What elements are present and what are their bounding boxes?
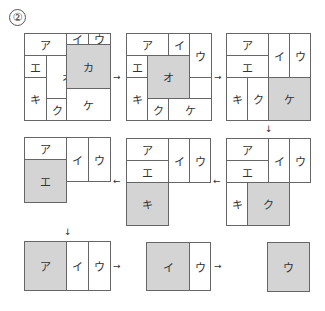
cell: ア	[24, 137, 67, 160]
cell: キ	[24, 77, 47, 121]
cell: エ	[226, 160, 269, 183]
arrow-left-icon: ←	[113, 176, 121, 186]
arrow-right-icon: →	[113, 72, 121, 82]
cell: ウ	[289, 138, 311, 183]
cell: ア	[126, 138, 169, 161]
cell: イ	[66, 137, 89, 182]
cell: ア	[226, 138, 269, 161]
cell: ア	[226, 33, 269, 56]
arrow-right-icon: →	[214, 72, 222, 82]
cell: ウ	[88, 241, 111, 291]
arrow-down-icon: ↓	[265, 124, 273, 134]
cell: ア	[24, 33, 67, 56]
arrow-right-icon: →	[113, 261, 121, 271]
cell: エ	[226, 55, 269, 78]
cell: イ	[268, 138, 290, 183]
shaded-cell: ケ	[268, 77, 311, 121]
arrow-left-icon: ←	[213, 176, 221, 186]
cell: ク	[147, 98, 169, 121]
arrow-down-icon: ↓	[64, 227, 72, 237]
cell: ケ	[168, 98, 212, 121]
shaded-cell: オ	[147, 55, 190, 99]
cell	[189, 77, 212, 99]
shaded-cell: イ	[146, 242, 190, 291]
shaded-cell: ア	[24, 241, 67, 291]
shaded-cell: エ	[24, 159, 67, 203]
cell: ウ	[189, 33, 212, 78]
shaded-cell: ク	[247, 182, 290, 226]
cell: ウ	[88, 137, 111, 182]
cell: エ	[24, 55, 47, 78]
shaded-cell: キ	[126, 182, 169, 226]
cell: イ	[168, 33, 190, 56]
cell: ウ	[289, 33, 311, 78]
arrow-right-icon: →	[214, 261, 222, 271]
cell: キ	[226, 182, 248, 226]
cell: ク	[46, 98, 68, 121]
cell: ケ	[66, 88, 111, 121]
cell: イ	[268, 33, 290, 78]
cell: イ	[168, 138, 190, 183]
cell: ウ	[189, 242, 211, 291]
cell: エ	[126, 55, 148, 78]
cell: ア	[126, 33, 169, 56]
cell: エ	[126, 160, 169, 183]
cell: イ	[66, 241, 89, 291]
problem-number: ②	[9, 9, 26, 26]
shaded-cell: カ	[66, 44, 111, 89]
cell: ク	[247, 77, 269, 121]
cell: キ	[126, 77, 148, 121]
shaded-cell: ウ	[267, 242, 310, 292]
cell: ウ	[189, 138, 211, 183]
cell: キ	[226, 77, 248, 121]
